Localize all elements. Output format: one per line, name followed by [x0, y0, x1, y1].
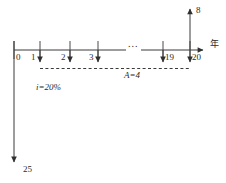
- tick-label-0: 0: [16, 52, 21, 62]
- tick-label-1: 1: [31, 52, 36, 62]
- cash-flow-timeline-svg: ... 年 0 1 2 3 19 20 A=4 i=20% 8: [0, 0, 226, 183]
- tick-label-20: 20: [192, 52, 202, 62]
- annuity-label: A=4: [123, 70, 141, 80]
- cash-flow-diagram: ... 年 0 1 2 3 19 20 A=4 i=20% 8: [0, 0, 226, 183]
- axis-unit-label: 年: [210, 38, 219, 49]
- tick-label-2: 2: [61, 52, 66, 62]
- interest-rate-label: i=20%: [36, 82, 61, 92]
- salvage-value-label: 8: [196, 5, 201, 15]
- tick-label-3: 3: [89, 52, 94, 62]
- axis-ellipsis: ...: [128, 38, 139, 49]
- tick-label-19: 19: [165, 52, 175, 62]
- initial-cost-label: 25: [23, 164, 33, 174]
